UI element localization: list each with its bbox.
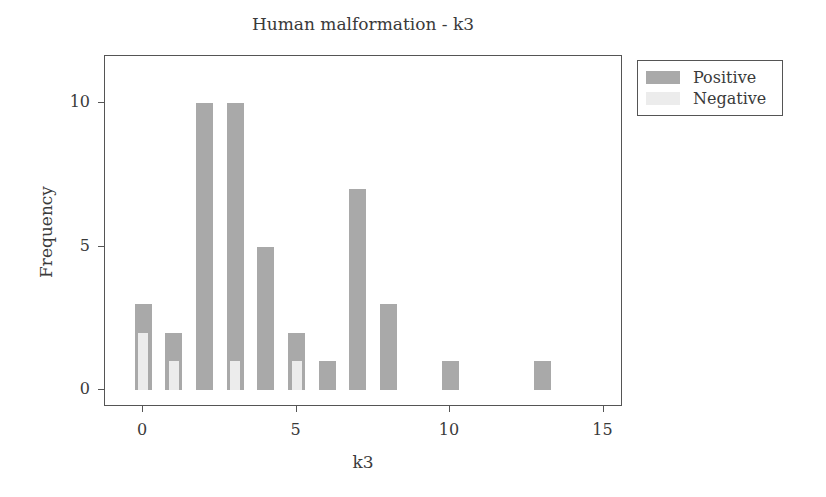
bar-positive-3	[227, 103, 244, 390]
x-tick-label: 0	[122, 420, 162, 439]
bar-positive-8	[380, 304, 397, 390]
y-axis-title: Frequency	[36, 186, 56, 278]
legend: Positive Negative	[637, 60, 783, 116]
x-tick	[296, 406, 297, 412]
x-tick-label: 15	[583, 420, 623, 439]
y-tick	[98, 389, 104, 390]
bar-positive-4	[257, 247, 274, 391]
legend-item-negative: Negative	[646, 88, 766, 108]
x-tick	[603, 406, 604, 412]
legend-swatch-negative	[646, 92, 680, 105]
x-tick-label: 5	[276, 420, 316, 439]
x-tick	[449, 406, 450, 412]
x-tick-label: 10	[429, 420, 469, 439]
y-tick	[98, 102, 104, 103]
chart-title: Human malformation - k3	[104, 14, 622, 34]
bar-negative-1	[169, 361, 179, 390]
bar-positive-13	[534, 361, 551, 390]
legend-item-positive: Positive	[646, 67, 756, 87]
y-tick-label: 10	[60, 92, 90, 111]
legend-label-positive: Positive	[693, 68, 756, 87]
legend-swatch-positive	[646, 71, 680, 84]
legend-label-negative: Negative	[693, 89, 766, 108]
bar-positive-10	[442, 361, 459, 390]
bar-positive-7	[349, 189, 366, 390]
bar-negative-0	[138, 333, 148, 390]
x-axis-title: k3	[352, 452, 373, 472]
x-tick	[142, 406, 143, 412]
y-tick-label: 5	[60, 236, 90, 255]
plot-area	[104, 55, 622, 406]
bar-positive-6	[319, 361, 336, 390]
y-tick	[98, 246, 104, 247]
bar-negative-3	[230, 361, 240, 390]
y-tick-label: 0	[60, 379, 90, 398]
bar-negative-5	[292, 361, 302, 390]
bar-positive-2	[196, 103, 213, 390]
